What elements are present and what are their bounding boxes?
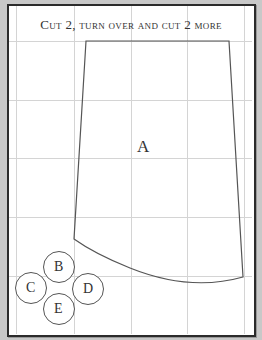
pattern-instruction-title: Cut 2, turn over and cut 2 more (0, 17, 262, 33)
piece-label-a: A (137, 137, 149, 157)
pattern-diagram (0, 0, 262, 340)
piece-label-d: D (83, 281, 93, 297)
piece-label-b: B (54, 259, 63, 275)
piece-label-e: E (54, 301, 63, 317)
piece-a-outline (74, 41, 243, 283)
piece-label-c: C (26, 280, 35, 296)
